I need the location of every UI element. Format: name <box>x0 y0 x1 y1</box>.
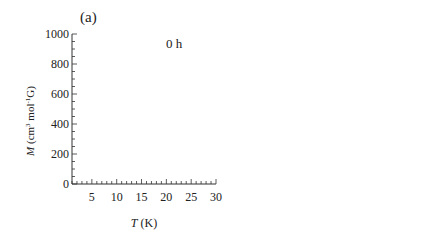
time-annotation: 0 h <box>166 36 183 51</box>
y-tick-label: 400 <box>51 117 69 131</box>
y-tick-label: 1000 <box>45 27 69 41</box>
y-tick-label: 600 <box>51 87 69 101</box>
panel-a: 0200400600800100051015202530T (K)M (cm3 … <box>24 9 222 230</box>
y-tick-label: 0 <box>63 177 69 191</box>
chart-svg: 0200400600800100051015202530T (K)M (cm3 … <box>0 0 444 243</box>
x-tick-label: 20 <box>160 190 172 204</box>
x-tick-label: 10 <box>111 190 123 204</box>
y-tick-label: 800 <box>51 57 69 71</box>
x-tick-label: 25 <box>185 190 197 204</box>
x-axis-label: T (K) <box>131 216 157 230</box>
x-tick-label: 15 <box>136 190 148 204</box>
x-tick-label: 30 <box>210 190 222 204</box>
x-tick-label: 5 <box>89 190 95 204</box>
y-axis-label: M (cm3 mol-1G) <box>24 86 37 157</box>
y-tick-label: 200 <box>51 147 69 161</box>
panel-label: (a) <box>80 9 97 26</box>
